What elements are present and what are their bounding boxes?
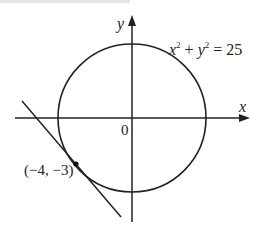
tangent-point-marker	[73, 161, 78, 166]
y-axis-arrow-icon	[128, 15, 136, 26]
circle-equation: x2 + y2 = 25	[168, 40, 242, 59]
x-axis-arrow-icon	[239, 114, 250, 122]
origin-label: 0	[121, 122, 129, 138]
y-axis-label: y	[115, 15, 125, 33]
circle-tangent-diagram: y x 0 x2 + y2 = 25 (−4, −3)	[0, 0, 256, 236]
tangent-point-label: (−4, −3)	[24, 162, 73, 179]
x-axis-label: x	[238, 98, 246, 115]
top-strip	[0, 0, 130, 3]
